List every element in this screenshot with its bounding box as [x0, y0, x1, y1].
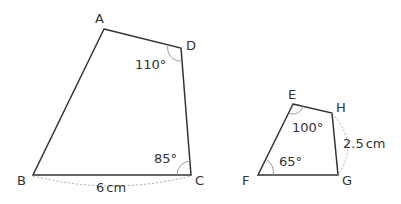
quadrilateral-abcd: A D B C 110° 85° 6cm — [17, 11, 204, 195]
angle-arc-c — [177, 161, 190, 175]
vertex-label-d: D — [186, 38, 196, 53]
vertex-label-e: E — [288, 87, 296, 102]
side-label-hg: 2.5cm — [343, 136, 386, 151]
angle-label-c: 85° — [154, 151, 177, 166]
vertex-label-g: G — [342, 173, 352, 188]
angle-arc-f — [267, 160, 273, 175]
quadrilateral-efgh: E H F G 100° 65° 2.5cm — [242, 87, 386, 188]
angle-label-e: 100° — [292, 120, 323, 135]
angle-label-d: 110° — [135, 57, 166, 72]
vertex-label-h: H — [336, 100, 346, 115]
vertex-label-f: F — [242, 173, 249, 188]
side-label-bc: 6cm — [96, 180, 126, 195]
angle-label-f: 65° — [279, 154, 302, 169]
vertex-label-b: B — [17, 173, 26, 188]
vertex-label-a: A — [95, 11, 104, 26]
quadrilateral-diagram: A D B C 110° 85° 6cm E H F G 100° 65° 2.… — [0, 0, 401, 204]
vertex-label-c: C — [195, 173, 204, 188]
